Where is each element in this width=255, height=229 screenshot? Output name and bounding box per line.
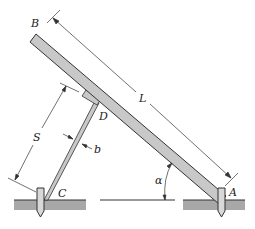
post-c xyxy=(37,188,44,217)
post-a xyxy=(218,188,225,217)
label-d: D xyxy=(98,110,108,123)
angle-alpha-arc xyxy=(163,163,172,200)
beam-strut-diagram: B L D S b C α A xyxy=(0,0,255,229)
ground-right xyxy=(183,200,245,210)
label-a: A xyxy=(228,186,237,199)
label-c: C xyxy=(58,187,67,200)
label-s: S xyxy=(33,131,41,144)
label-b-width: b xyxy=(94,143,101,156)
ground-left xyxy=(14,200,86,210)
strut-cd xyxy=(44,101,99,200)
label-l: L xyxy=(138,92,146,105)
label-b-point: B xyxy=(30,17,39,30)
label-alpha: α xyxy=(155,174,163,187)
